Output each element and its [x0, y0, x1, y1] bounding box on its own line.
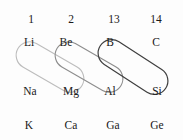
- element-li: Li: [24, 37, 34, 49]
- element-na: Na: [23, 86, 36, 98]
- group-label-14: 14: [150, 14, 162, 26]
- element-al: Al: [104, 86, 116, 98]
- element-si: Si: [152, 86, 162, 98]
- group-label-13: 13: [108, 14, 120, 26]
- diagonal-relationship-figure: 121314 LiBeBCNaMgAlSiKCaGaGe: [0, 0, 183, 140]
- group-label-2: 2: [68, 14, 74, 26]
- element-ge: Ge: [150, 120, 163, 132]
- element-b: B: [106, 37, 114, 49]
- element-mg: Mg: [63, 86, 79, 98]
- element-ca: Ca: [65, 120, 78, 132]
- group-label-1: 1: [28, 14, 34, 26]
- element-ga: Ga: [106, 120, 119, 132]
- element-be: Be: [60, 37, 73, 49]
- element-c: C: [152, 37, 160, 49]
- element-k: K: [25, 120, 33, 132]
